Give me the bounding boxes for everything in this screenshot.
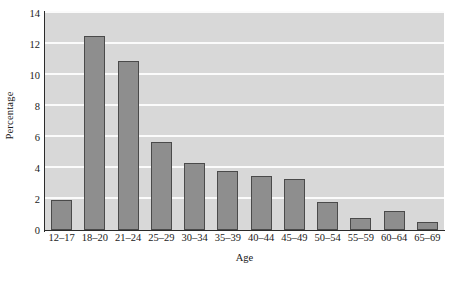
bar-series [45, 13, 444, 230]
bar [350, 218, 371, 230]
bar-slot [245, 13, 278, 230]
bar [151, 142, 172, 230]
x-tick-label: 40–44 [245, 232, 278, 248]
bar [51, 200, 72, 230]
x-tick-label: 35–39 [211, 232, 244, 248]
x-tick-label: 50–54 [311, 232, 344, 248]
x-tick-label: 60–64 [378, 232, 411, 248]
bar-slot [178, 13, 211, 230]
x-tick-label: 18–20 [78, 232, 111, 248]
bar-slot [211, 13, 244, 230]
x-tick-label: 45–49 [278, 232, 311, 248]
plot-area [45, 13, 444, 230]
bar-slot [45, 13, 78, 230]
y-tick-label: 0 [35, 225, 40, 236]
x-tick-label: 55–59 [344, 232, 377, 248]
bar [317, 202, 338, 230]
bar [184, 163, 205, 230]
bar [384, 211, 405, 230]
bar-chart-figure: Percentage 02468101214 12–1718–2021–2425… [0, 0, 467, 281]
y-tick-label: 6 [35, 132, 40, 143]
bar-slot [344, 13, 377, 230]
x-tick-label: 65–69 [411, 232, 444, 248]
y-tick-label: 4 [35, 163, 40, 174]
x-tick-label: 30–34 [178, 232, 211, 248]
bar-slot [378, 13, 411, 230]
y-tick-label: 10 [30, 70, 41, 81]
bar [118, 61, 139, 230]
y-axis-tick-labels: 02468101214 [18, 0, 44, 231]
x-tick-label: 25–29 [145, 232, 178, 248]
bar [217, 171, 238, 230]
y-axis-title-text: Percentage [4, 91, 15, 139]
x-axis-title: Age [45, 252, 444, 263]
bar [251, 176, 272, 230]
y-tick-label: 12 [30, 39, 41, 50]
x-tick-label: 21–24 [112, 232, 145, 248]
bar-slot [311, 13, 344, 230]
bar-slot [112, 13, 145, 230]
bar-slot [278, 13, 311, 230]
bar-slot [78, 13, 111, 230]
bar [417, 222, 438, 230]
y-tick-label: 14 [30, 8, 41, 19]
y-tick-label: 2 [35, 194, 40, 205]
x-tick-label: 12–17 [45, 232, 78, 248]
bar-slot [411, 13, 444, 230]
x-axis-tick-labels: 12–1718–2021–2425–2930–3435–3940–4445–49… [45, 232, 444, 248]
bar [84, 36, 105, 230]
y-axis-title: Percentage [0, 0, 18, 230]
y-tick-label: 8 [35, 101, 40, 112]
bar [284, 179, 305, 230]
bar-slot [145, 13, 178, 230]
